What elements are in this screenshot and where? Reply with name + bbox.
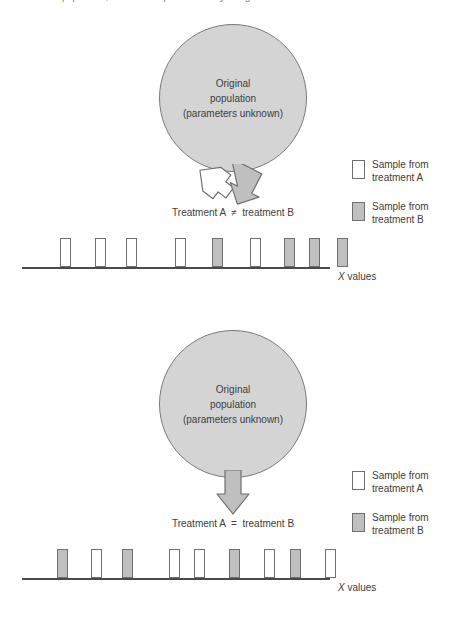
diagram-page: population, and the samples differ only …	[0, 0, 465, 622]
sample-bar-a	[250, 238, 261, 267]
legend-b-line2: treatment B	[372, 214, 424, 225]
axis-line	[22, 578, 330, 580]
legend-label-sample-b: Sample from treatment B	[372, 201, 429, 226]
arrow-down-left-white	[200, 166, 235, 201]
sample-bar-b	[337, 238, 348, 267]
sample-bar-a	[325, 549, 336, 578]
number-line-equal: X values	[0, 540, 465, 586]
sample-bar-a	[91, 549, 102, 578]
legend-b-line1: Sample from	[372, 512, 429, 523]
circle-line-3: (parameters unknown)	[183, 106, 283, 121]
legend-a-line2: treatment A	[372, 172, 423, 183]
legend-a-line1: Sample from	[372, 470, 429, 481]
sample-bar-a	[95, 238, 106, 267]
legend-row-sample-a: Sample from treatment A	[352, 159, 429, 184]
axis-label-symbol: X	[338, 271, 345, 282]
legend-row-sample-a: Sample from treatment A	[352, 470, 429, 495]
number-line-unequal: X values	[0, 229, 465, 275]
sample-bar-b	[122, 549, 133, 578]
legend-a-line1: Sample from	[372, 159, 429, 170]
legend-label-sample-a: Sample from treatment A	[372, 470, 429, 495]
axis-label-x-values: X values	[338, 582, 376, 593]
sample-bar-b	[212, 238, 223, 267]
legend-swatch-sample-b	[352, 513, 365, 532]
circle-line-1: Original	[216, 76, 250, 91]
legend-label-sample-a: Sample from treatment A	[372, 159, 429, 184]
sample-bar-a	[169, 549, 180, 578]
top-clipped-caption: population, and the samples differ only …	[62, 0, 402, 2]
circle-line-2: population	[210, 397, 256, 412]
circle-line-1: Original	[216, 382, 250, 397]
axis-label-text: values	[345, 271, 377, 282]
circle-line-3: (parameters unknown)	[183, 412, 283, 427]
legend-swatch-sample-b	[352, 202, 365, 221]
original-population-circle: Original population (parameters unknown)	[159, 24, 307, 172]
sample-bar-a	[126, 238, 137, 267]
axis-line	[22, 267, 330, 269]
relation-caption: Treatment A = treatment B	[80, 518, 386, 529]
sample-bar-b	[284, 238, 295, 267]
legend-b-line1: Sample from	[372, 201, 429, 212]
legend-row-sample-b: Sample from treatment B	[352, 512, 429, 537]
axis-label-symbol: X	[338, 582, 345, 593]
sample-bar-b	[57, 549, 68, 578]
sample-bar-b	[229, 549, 240, 578]
legend-label-sample-b: Sample from treatment B	[372, 512, 429, 537]
legend-swatch-sample-a	[352, 471, 365, 490]
axis-label-text: values	[345, 582, 377, 593]
legend-row-sample-b: Sample from treatment B	[352, 201, 429, 226]
axis-label-x-values: X values	[338, 271, 376, 282]
relation-caption: Treatment A ≠ treatment B	[80, 207, 386, 218]
sample-bar-a	[264, 549, 275, 578]
arrow-down-gray	[217, 470, 249, 514]
legend-swatch-sample-a	[352, 160, 365, 179]
circle-line-2: population	[210, 91, 256, 106]
diverging-arrows-group	[159, 164, 307, 212]
sample-bar-b	[309, 238, 320, 267]
legend-b-line2: treatment B	[372, 525, 424, 536]
original-population-circle: Original population (parameters unknown)	[159, 330, 307, 478]
sample-bar-b	[290, 549, 301, 578]
sample-bar-a	[175, 238, 186, 267]
sample-bar-a	[60, 238, 71, 267]
legend-a-line2: treatment A	[372, 483, 423, 494]
single-arrow-group	[159, 470, 307, 518]
sample-bar-a	[194, 549, 205, 578]
